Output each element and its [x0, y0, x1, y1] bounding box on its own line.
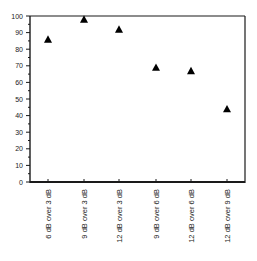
triangle-marker [115, 25, 123, 32]
y-tick-label: 90 [15, 29, 23, 36]
x-tick-label: 12 dB over 3 dB [115, 189, 124, 243]
data-points [44, 15, 231, 112]
y-tick-label: 100 [11, 13, 23, 20]
y-tick-label: 70 [15, 62, 23, 69]
x-axis: 6 dB over 3 dB9 dB over 3 dB12 dB over 3… [30, 179, 245, 243]
y-tick-label: 40 [15, 112, 23, 119]
x-tick-label: 12 dB over 6 dB [187, 189, 196, 243]
y-tick-label: 30 [15, 129, 23, 136]
y-tick-label: 20 [15, 145, 23, 152]
triangle-marker [187, 67, 195, 74]
triangle-marker [44, 35, 52, 42]
y-axis: 0102030405060708090100 [11, 13, 30, 186]
y-tick-label: 80 [15, 46, 23, 53]
triangle-marker [223, 105, 231, 112]
x-tick-label: 9 dB over 3 dB [80, 189, 89, 239]
triangle-marker [152, 63, 160, 70]
scatter-chart: 0102030405060708090100 6 dB over 3 dB9 d… [0, 0, 257, 261]
plot-frame [30, 16, 245, 183]
x-tick-label: 6 dB over 3 dB [44, 189, 53, 239]
y-tick-label: 60 [15, 79, 23, 86]
y-tick-label: 0 [19, 179, 23, 186]
x-tick-label: 12 dB over 9 dB [223, 189, 232, 243]
y-tick-label: 50 [15, 96, 23, 103]
x-tick-label: 9 dB over 6 dB [152, 189, 161, 239]
y-tick-label: 10 [15, 162, 23, 169]
